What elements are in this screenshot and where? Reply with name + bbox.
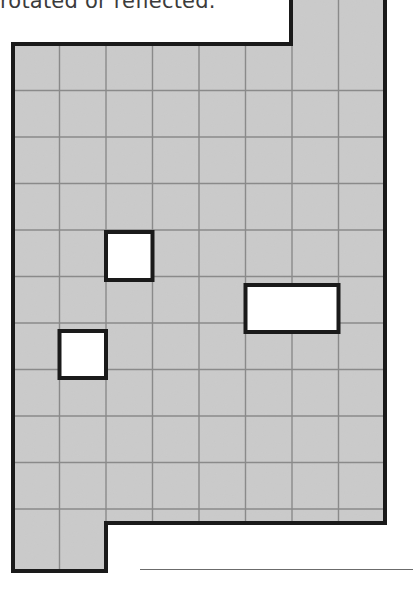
bottom-horizontal-rule (140, 569, 413, 570)
figure-page: rotated or reflected. (0, 0, 413, 590)
hole-small-lower (60, 331, 107, 378)
body-texture (0, 0, 413, 590)
figure-body (0, 0, 413, 590)
hole-small-upper (106, 232, 153, 280)
hole-wide-middle (246, 285, 339, 332)
grid-polyomino-figure (0, 0, 413, 590)
